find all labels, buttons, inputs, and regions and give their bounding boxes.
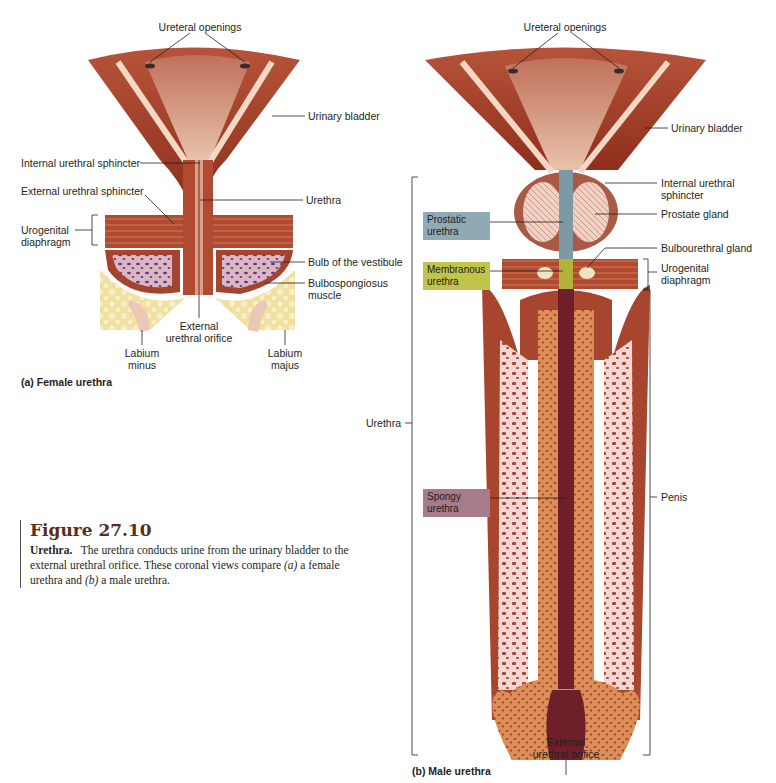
label-urogenital-diaphragm-female-1: Urogenital (21, 224, 69, 237)
label-labium-majus-2: majus (260, 359, 310, 372)
figure-caption: Figure 27.10 Urethra. The urethra conduc… (20, 520, 370, 588)
segment-box-membranous-urethra: Membranous urethra (423, 262, 490, 290)
label-urethra-female: Urethra (306, 194, 341, 207)
label-urethra-male: Urethra (366, 417, 401, 430)
segment-spongy-line2: urethra (427, 503, 486, 515)
label-labium-majus-1: Labium (260, 347, 310, 360)
label-urogenital-diaphragm-male-2: diaphragm (661, 274, 711, 287)
caption-ref-b: (b) (85, 574, 98, 586)
label-labium-minus-1: Labium (117, 347, 167, 360)
label-ureteral-openings-male: Ureteral openings (515, 21, 615, 34)
label-external-urethral-sphincter: External urethral sphincter (21, 185, 144, 198)
segment-spongy-line1: Spongy (427, 491, 486, 503)
figure-caption-text: Urethra. The urethra conducts urine from… (30, 543, 370, 588)
label-urinary-bladder-female: Urinary bladder (308, 110, 380, 123)
segment-prostatic-line1: Prostatic (427, 214, 486, 226)
label-internal-urethral-sphincter-male-1: Internal urethral (661, 177, 735, 190)
label-urogenital-diaphragm-female-2: diaphragm (21, 236, 71, 249)
label-penis: Penis (661, 491, 687, 504)
anatomy-illustration (0, 0, 776, 783)
male-diagram (425, 48, 706, 761)
label-bulbospongiosus-1: Bulbospongiosus (308, 277, 388, 290)
label-external-orifice-male-2: urethral orifice (516, 748, 616, 761)
figure-number: Figure 27.10 (30, 520, 370, 540)
label-urinary-bladder-male: Urinary bladder (671, 122, 743, 135)
segment-membranous-line1: Membranous (427, 264, 486, 276)
label-internal-urethral-sphincter-female: Internal urethral sphincter (21, 157, 140, 170)
label-ureteral-openings-female: Ureteral openings (150, 21, 250, 34)
caption-lead: Urethra. (30, 544, 72, 556)
label-internal-urethral-sphincter-male-2: sphincter (661, 189, 704, 202)
caption-text-3: a male urethra. (98, 574, 170, 586)
label-labium-minus-2: minus (117, 359, 167, 372)
label-external-orifice-male-1: External (526, 736, 606, 749)
panel-title-female: (a) Female urethra (21, 376, 112, 388)
segment-membranous-line2: urethra (427, 276, 486, 288)
label-urogenital-diaphragm-male-1: Urogenital (661, 262, 709, 275)
label-bulbospongiosus-2: muscle (308, 289, 341, 302)
segment-box-spongy-urethra: Spongy urethra (423, 489, 490, 517)
label-prostate-gland: Prostate gland (661, 208, 729, 221)
label-bulb-of-vestibule: Bulb of the vestibule (308, 256, 403, 269)
label-bulbourethral-gland: Bulbourethral gland (661, 242, 752, 255)
segment-box-prostatic-urethra: Prostatic urethra (423, 212, 490, 240)
segment-prostatic-line2: urethra (427, 226, 486, 238)
panel-title-male: (b) Male urethra (412, 765, 491, 777)
label-external-orifice-female-1: External (159, 320, 239, 333)
label-external-orifice-female-2: urethral orifice (159, 332, 239, 345)
caption-ref-a: (a) (284, 559, 297, 571)
